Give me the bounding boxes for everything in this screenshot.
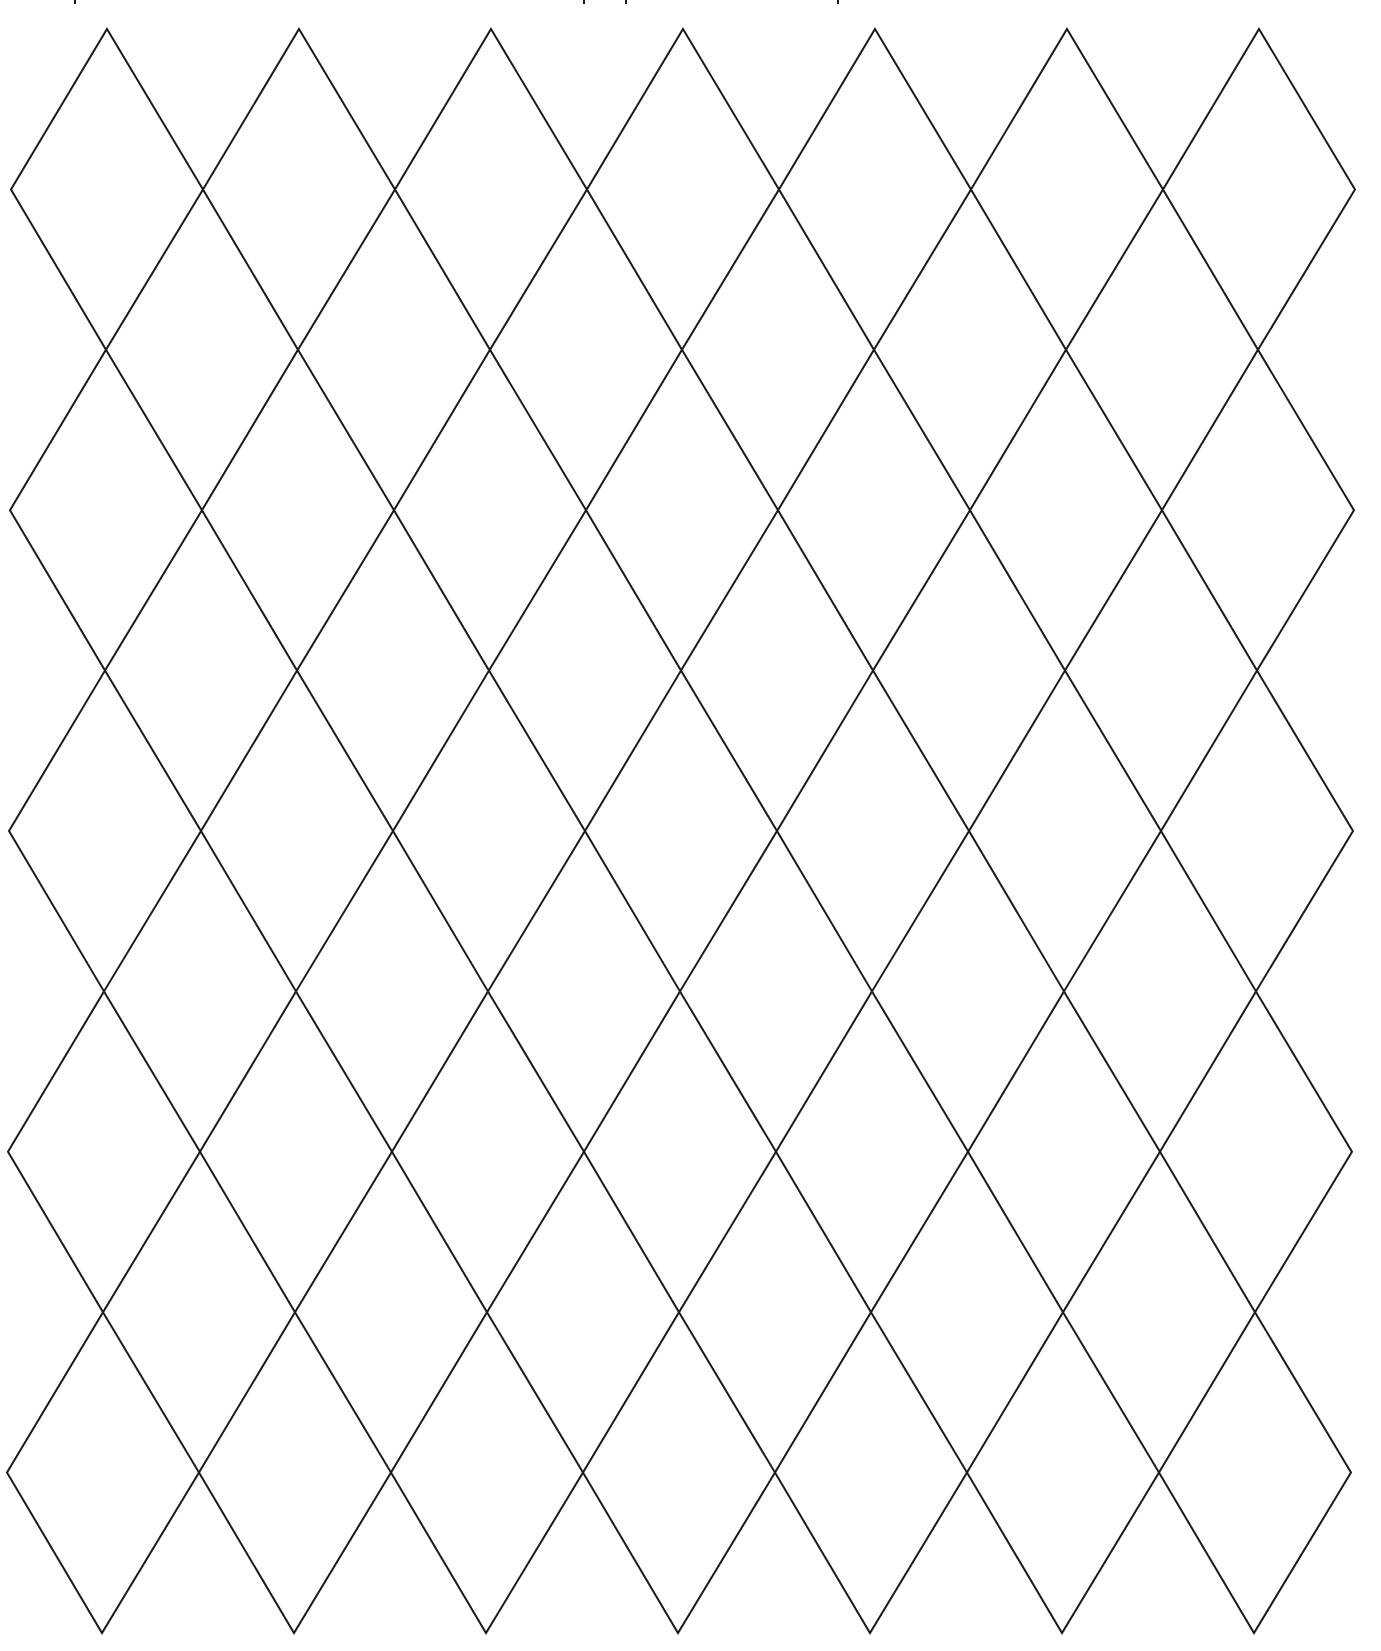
diamond-grid (0, 0, 1381, 1651)
diamond-cell (395, 29, 587, 350)
diamond-cell (585, 671, 777, 992)
diamond-cell (1162, 350, 1354, 671)
diamond-cell (392, 991, 584, 1312)
diamond-cell (391, 1312, 583, 1633)
diamond-cell (1160, 991, 1352, 1312)
diamond-cell (1163, 29, 1355, 350)
diamond-cell (776, 991, 968, 1312)
page-canvas: Diamond (harlequin) grid template (0, 0, 1381, 1651)
diamond-row (9, 671, 1353, 992)
diamond-cell (9, 671, 201, 992)
diamond-cell (968, 991, 1160, 1312)
diamond-cell (393, 671, 585, 992)
diamond-cell (201, 671, 393, 992)
diamond-cell (778, 350, 970, 671)
diamond-cell (394, 350, 586, 671)
diamond-cell (7, 1312, 199, 1633)
diamond-cell (583, 1312, 775, 1633)
diamond-cell (967, 1312, 1159, 1633)
diamond-cell (587, 29, 779, 350)
diamond-cell (1161, 671, 1353, 992)
diamond-cell (11, 29, 203, 350)
diamond-cell (584, 991, 776, 1312)
diamond-cell (203, 29, 395, 350)
diamond-cell (1159, 1312, 1351, 1633)
diamond-cell (202, 350, 394, 671)
diamond-cell (200, 991, 392, 1312)
diamond-cell (969, 671, 1161, 992)
diamond-cell (971, 29, 1163, 350)
diamond-row (8, 991, 1352, 1312)
diamond-cell (779, 29, 971, 350)
diamond-cell (777, 671, 969, 992)
diamond-row (7, 1312, 1351, 1633)
diamond-cell (775, 1312, 967, 1633)
diamond-cell (586, 350, 778, 671)
diamond-cell (970, 350, 1162, 671)
diamond-row (10, 350, 1354, 671)
diamond-cell (8, 991, 200, 1312)
diamond-cell (199, 1312, 391, 1633)
diamond-row (11, 29, 1355, 350)
diamond-cell (10, 350, 202, 671)
